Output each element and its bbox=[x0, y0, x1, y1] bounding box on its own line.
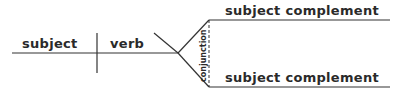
conjunction-label: conjunction bbox=[199, 29, 208, 82]
subject-label: subject bbox=[22, 36, 78, 51]
verb-label: verb bbox=[110, 36, 144, 51]
complement-top-label: subject complement bbox=[225, 3, 379, 18]
complement-bottom-label: subject complement bbox=[225, 70, 379, 85]
complement-slant-line bbox=[154, 33, 178, 53]
sentence-diagram: subject verb subject complement subject … bbox=[0, 0, 407, 93]
